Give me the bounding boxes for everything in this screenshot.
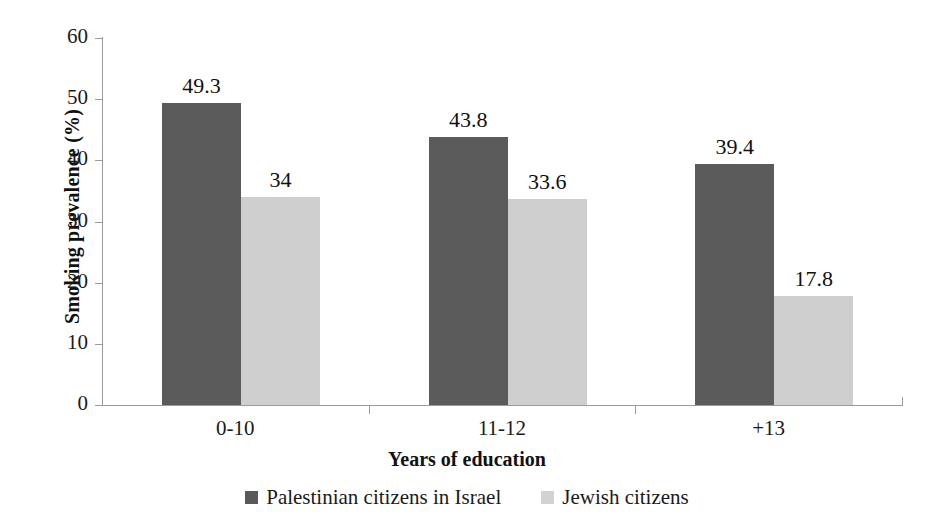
y-axis-tick-label: 50 (38, 87, 88, 108)
y-axis-tick-label: 0 (38, 393, 88, 414)
legend-swatch-icon (541, 491, 554, 504)
y-axis-tick (95, 405, 103, 406)
bar-value-label: 33.6 (498, 171, 597, 193)
x-axis-tick (635, 405, 636, 414)
y-axis-tick-label: 60 (38, 26, 88, 47)
bar-+13-series-0[interactable] (695, 164, 774, 405)
y-axis-tick-label: 40 (38, 148, 88, 169)
bar-+13-series-1[interactable] (774, 296, 853, 405)
bar-0-10-series-0[interactable] (162, 103, 241, 405)
x-axis-end-tick (902, 397, 903, 406)
plot-area: 49.33443.833.639.417.8 (102, 38, 902, 405)
bar-0-10-series-1[interactable] (241, 197, 320, 405)
bar-value-label: 39.4 (685, 136, 784, 158)
bar-value-label: 49.3 (152, 75, 251, 97)
legend-item[interactable]: Jewish citizens (541, 487, 689, 508)
legend-label: Palestinian citizens in Israel (266, 487, 501, 508)
bar-11-12-series-0[interactable] (429, 137, 508, 405)
legend-swatch-icon (245, 491, 258, 504)
bar-chart-figure: Smoking prevalence (%) 0102030405060 49.… (0, 0, 934, 526)
x-axis-category-label: +13 (635, 418, 902, 439)
x-axis-title: Years of education (0, 448, 934, 471)
x-axis-tick (369, 405, 370, 414)
x-axis-category-label: 0-10 (102, 418, 369, 439)
bar-11-12-series-1[interactable] (508, 199, 587, 405)
legend-label: Jewish citizens (562, 487, 689, 508)
x-axis-line (102, 405, 902, 406)
legend-item[interactable]: Palestinian citizens in Israel (245, 487, 501, 508)
x-axis-category-label: 11-12 (369, 418, 636, 439)
chart-legend: Palestinian citizens in IsraelJewish cit… (0, 487, 934, 508)
bar-value-label: 34 (231, 169, 330, 191)
bar-value-label: 43.8 (419, 109, 518, 131)
y-axis-tick-label: 20 (38, 271, 88, 292)
y-axis-tick-label: 30 (38, 210, 88, 231)
bar-value-label: 17.8 (764, 268, 863, 290)
y-axis-tick-label: 10 (38, 332, 88, 353)
